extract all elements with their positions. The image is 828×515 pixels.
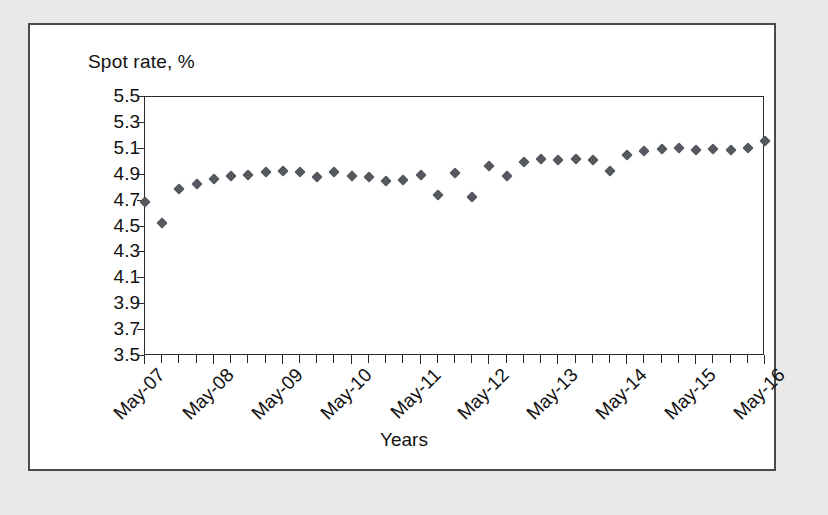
data-point-marker xyxy=(759,135,770,146)
x-axis-tick-mark xyxy=(385,355,386,363)
data-point-marker xyxy=(277,165,288,176)
x-axis-tick-mark xyxy=(764,355,765,364)
data-point-marker xyxy=(622,150,633,161)
x-axis-tick-mark xyxy=(437,355,438,363)
x-axis-tick-label: May-16 xyxy=(729,364,789,424)
data-point-marker xyxy=(157,217,168,228)
x-axis-tick-label: May-15 xyxy=(660,364,720,424)
x-axis-tick-mark xyxy=(420,355,421,364)
x-axis-tick-mark xyxy=(368,355,369,363)
x-axis-tick-mark xyxy=(523,355,524,363)
data-point-marker xyxy=(553,155,564,166)
y-axis-tick-mark xyxy=(137,329,144,330)
x-axis-tick-mark xyxy=(402,355,403,363)
data-point-marker xyxy=(225,170,236,181)
figure-frame: Spot rate, % 5.55.35.14.94.74.54.34.13.9… xyxy=(28,23,776,471)
y-axis-tick-mark xyxy=(137,226,144,227)
data-point-marker xyxy=(415,169,426,180)
data-point-marker xyxy=(570,153,581,164)
x-axis-tick-mark xyxy=(196,355,197,363)
x-axis-tick-mark xyxy=(316,355,317,363)
x-axis-tick-mark xyxy=(351,355,352,364)
page-background: Spot rate, % 5.55.35.14.94.74.54.34.13.9… xyxy=(0,0,828,515)
data-point-marker xyxy=(449,168,460,179)
x-axis-tick-mark xyxy=(282,355,283,364)
data-point-marker xyxy=(673,142,684,153)
data-point-marker xyxy=(329,166,340,177)
data-point-marker xyxy=(174,183,185,194)
x-axis-tick-mark xyxy=(213,355,214,364)
data-point-marker xyxy=(432,190,443,201)
data-point-marker xyxy=(690,144,701,155)
x-axis-tick-mark xyxy=(730,355,731,363)
x-axis-tick-label: May-10 xyxy=(316,364,376,424)
data-point-marker xyxy=(484,160,495,171)
data-point-marker xyxy=(501,170,512,181)
data-point-marker xyxy=(398,174,409,185)
data-point-marker xyxy=(243,169,254,180)
data-point-marker xyxy=(346,170,357,181)
x-axis-tick-marks xyxy=(144,355,764,364)
y-axis-tick-mark xyxy=(137,174,144,175)
data-point-marker xyxy=(191,178,202,189)
x-axis-tick-mark xyxy=(178,355,179,363)
x-axis-tick-mark xyxy=(230,355,231,363)
x-axis-tick-mark xyxy=(333,355,334,363)
x-axis-tick-mark xyxy=(471,355,472,363)
x-axis-tick-mark xyxy=(247,355,248,363)
x-axis-tick-label: May-11 xyxy=(386,364,445,423)
y-axis-title: Spot rate, % xyxy=(88,51,195,73)
data-point-marker xyxy=(294,166,305,177)
x-axis-tick-mark xyxy=(643,355,644,363)
x-axis-tick-mark xyxy=(144,355,145,364)
data-point-marker xyxy=(604,165,615,176)
data-point-marker xyxy=(587,155,598,166)
y-axis-tick-mark xyxy=(137,96,144,97)
data-series-markers xyxy=(145,97,763,354)
x-axis-tick-mark xyxy=(540,355,541,363)
x-axis-tick-mark xyxy=(265,355,266,363)
x-axis-tick-mark xyxy=(454,355,455,363)
x-axis-tick-label: May-09 xyxy=(247,364,307,424)
x-axis-tick-label: May-14 xyxy=(591,364,651,424)
y-axis-tick-labels: 5.55.35.14.94.74.54.34.13.93.73.5 xyxy=(88,96,140,355)
x-axis-tick-mark xyxy=(592,355,593,363)
data-point-marker xyxy=(742,142,753,153)
data-point-marker xyxy=(467,191,478,202)
x-axis-tick-mark xyxy=(695,355,696,364)
data-point-marker xyxy=(725,144,736,155)
x-axis-tick-mark xyxy=(712,355,713,363)
data-point-marker xyxy=(139,196,150,207)
x-axis-tick-label: May-08 xyxy=(178,364,238,424)
y-axis-tick-mark xyxy=(137,355,144,356)
x-axis-tick-mark xyxy=(161,355,162,363)
x-axis-tick-mark xyxy=(575,355,576,363)
data-point-marker xyxy=(380,176,391,187)
x-axis-tick-mark xyxy=(678,355,679,363)
y-axis-tick-mark xyxy=(137,277,144,278)
data-point-marker xyxy=(208,173,219,184)
x-axis-tick-mark xyxy=(747,355,748,363)
y-axis-tick-mark xyxy=(137,148,144,149)
x-axis-tick-label: May-12 xyxy=(454,364,514,424)
data-point-marker xyxy=(656,143,667,154)
y-axis-tick-mark xyxy=(137,303,144,304)
x-axis-tick-mark xyxy=(506,355,507,363)
x-axis-tick-mark xyxy=(626,355,627,364)
y-axis-tick-mark xyxy=(137,251,144,252)
y-axis-tick-mark xyxy=(137,122,144,123)
data-point-marker xyxy=(312,172,323,183)
x-axis-tick-mark xyxy=(299,355,300,363)
data-point-marker xyxy=(708,143,719,154)
x-axis-tick-mark xyxy=(609,355,610,363)
x-axis-tick-label: May-13 xyxy=(523,364,583,424)
data-point-marker xyxy=(535,153,546,164)
data-point-marker xyxy=(639,146,650,157)
x-axis-tick-mark xyxy=(557,355,558,364)
plot-area xyxy=(144,96,764,355)
data-point-marker xyxy=(518,156,529,167)
data-point-marker xyxy=(260,166,271,177)
x-axis-tick-label: May-07 xyxy=(109,364,169,424)
data-point-marker xyxy=(363,172,374,183)
x-axis-tick-mark xyxy=(661,355,662,363)
